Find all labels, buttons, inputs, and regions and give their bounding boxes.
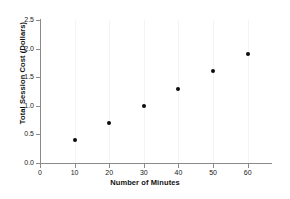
y-axis-line — [40, 19, 41, 164]
y-tick-mark — [36, 106, 40, 107]
y-tick-mark — [36, 134, 40, 135]
y-tick-mark — [36, 77, 40, 78]
x-tick-mark — [248, 164, 249, 168]
x-tick-label: 30 — [132, 169, 156, 177]
x-tick-mark — [75, 164, 76, 168]
gridline-vertical — [178, 20, 179, 163]
gridline-vertical — [248, 20, 249, 163]
data-point — [142, 104, 146, 108]
data-point — [211, 69, 215, 73]
y-axis-title: Total Session Cost (Dollars) — [17, 0, 29, 148]
data-point — [73, 138, 77, 142]
x-tick-label: 50 — [201, 169, 225, 177]
y-tick-mark — [36, 49, 40, 50]
x-tick-label: 10 — [63, 169, 87, 177]
gridline-vertical — [213, 20, 214, 163]
data-point — [176, 87, 180, 91]
x-tick-label: 0 — [28, 169, 52, 177]
x-tick-mark — [213, 164, 214, 168]
x-tick-label: 20 — [97, 169, 121, 177]
x-tick-label: 60 — [236, 169, 260, 177]
y-tick-mark — [36, 20, 40, 21]
plot-area — [40, 20, 265, 163]
data-point — [246, 52, 250, 56]
x-tick-mark — [40, 164, 41, 168]
x-tick-mark — [178, 164, 179, 168]
x-axis-title: Number of Minutes — [0, 178, 290, 187]
x-tick-mark — [109, 164, 110, 168]
data-point — [107, 121, 111, 125]
y-tick-label: 0.0 — [4, 159, 34, 167]
gridline-vertical — [144, 20, 145, 163]
gridline-vertical — [109, 20, 110, 163]
x-tick-mark — [144, 164, 145, 168]
y-axis-title-wrapper: Total Session Cost (Dollars) — [17, 0, 29, 148]
scatter-plot-figure: 0.00.51.01.52.02.5 0102030405060 Number … — [0, 0, 290, 199]
x-tick-label: 40 — [166, 169, 190, 177]
